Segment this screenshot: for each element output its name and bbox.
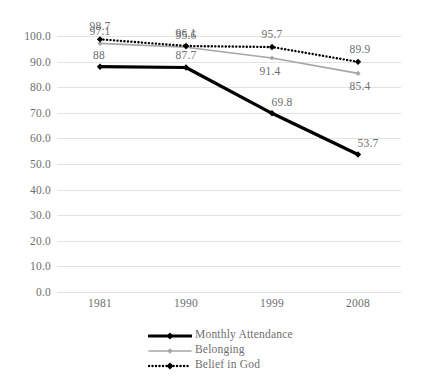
line-chart: Monthly AttendanceBelongingBelief in God…: [0, 0, 427, 389]
x-axis-tick-label: 1981: [88, 297, 112, 309]
gridline: [57, 215, 401, 216]
y-axis-tick-label: 70.0: [30, 107, 51, 119]
legend-key-icon: [148, 358, 192, 370]
data-point-label: 95.7: [262, 28, 283, 40]
gridline: [57, 241, 401, 242]
legend-item[interactable]: Monthly Attendance: [0, 326, 427, 341]
data-point-label: 96.1: [176, 27, 197, 39]
data-point-label: 89.9: [350, 43, 371, 55]
data-point-label: 91.4: [260, 65, 281, 77]
y-axis-tick-label: 0.0: [36, 286, 51, 298]
y-axis-tick-label: 100.0: [24, 30, 51, 42]
gridline: [57, 292, 401, 293]
x-axis-tick-label: 2008: [346, 297, 370, 309]
data-point-label: 88: [93, 49, 105, 61]
legend-item[interactable]: Belief in God: [0, 356, 427, 371]
y-axis-tick-label: 60.0: [30, 132, 51, 144]
gridline: [57, 113, 401, 114]
y-axis-tick-label: 20.0: [30, 235, 51, 247]
gridline: [57, 164, 401, 165]
legend-item[interactable]: Belonging: [0, 341, 427, 356]
legend-label: Belief in God: [195, 358, 260, 370]
gridline: [57, 62, 401, 63]
y-axis-tick-label: 10.0: [30, 260, 51, 272]
y-axis-tick-label: 90.0: [30, 56, 51, 68]
x-axis-tick-label: 1999: [260, 297, 284, 309]
y-axis-tick-label: 30.0: [30, 209, 51, 221]
data-point-label: 69.8: [272, 96, 293, 108]
gridline: [57, 138, 401, 139]
y-axis-tick-label: 40.0: [30, 184, 51, 196]
chart-legend: Monthly AttendanceBelongingBelief in God: [0, 326, 427, 371]
legend-key-icon: [148, 328, 192, 340]
y-axis-tick-label: 80.0: [30, 81, 51, 93]
gridline: [57, 190, 401, 191]
legend-key-icon: [148, 343, 192, 355]
data-point-label: 98.7: [90, 20, 111, 32]
plot-area: [57, 36, 401, 292]
gridline: [57, 266, 401, 267]
legend-label: Monthly Attendance: [195, 328, 293, 340]
data-point-label: 87.7: [176, 49, 197, 61]
data-point-label: 85.4: [350, 80, 371, 92]
data-point-label: 53.7: [358, 137, 379, 149]
y-axis-tick-label: 50.0: [30, 158, 51, 170]
legend-label: Belonging: [195, 343, 245, 355]
x-axis-tick-label: 1990: [174, 297, 198, 309]
